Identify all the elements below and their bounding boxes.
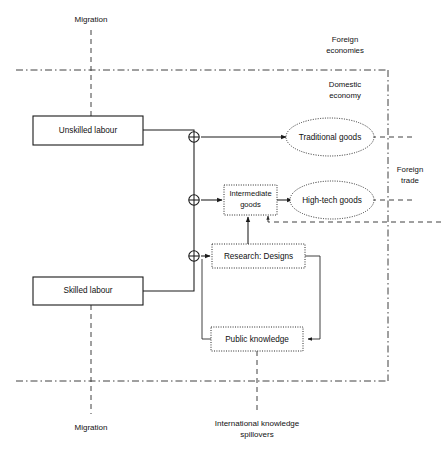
research-to-public-knowledge	[305, 256, 320, 339]
imported-intermediates-path	[268, 216, 441, 222]
domestic-economy-label-line1: Domestic	[329, 80, 362, 89]
unskilled-labour-label: Unskilled labour	[59, 126, 118, 135]
knowledge-spillovers-label-line1: International knowledge	[215, 419, 300, 428]
foreign-trade-label-line2: trade	[401, 176, 419, 185]
intermediate-goods-label-line2: goods	[240, 200, 261, 209]
foreign-economies-label-line1: Foreign	[332, 35, 358, 44]
external-flow-lines	[91, 30, 257, 414]
foreign-trade-label-line1: Foreign	[397, 165, 423, 174]
knowledge-spillovers-label-line2: spillovers	[240, 430, 273, 439]
node-high-tech-goods[interactable]: High-tech goods	[290, 181, 374, 219]
node-intermediate-goods[interactable]: Intermediate goods	[224, 185, 277, 215]
public-knowledge-label: Public knowledge	[225, 335, 289, 344]
migration-top-label: Migration	[75, 15, 108, 24]
traditional-goods-label: Traditional goods	[299, 133, 362, 142]
high-tech-goods-label: High-tech goods	[302, 196, 362, 205]
migration-bottom-label: Migration	[75, 423, 108, 432]
node-traditional-goods[interactable]: Traditional goods	[286, 118, 374, 156]
node-unskilled-labour[interactable]: Unskilled labour	[33, 116, 143, 145]
unskilled-labour-trunk	[143, 130, 194, 254]
flow-text-labels: Migration Migration International knowle…	[75, 15, 300, 439]
foreign-economies-label-line2: economies	[326, 46, 364, 55]
skilled-labour-label: Skilled labour	[63, 286, 112, 295]
skilled-labour-trunk	[143, 254, 194, 291]
flow-diagram: Unskilled labour Skilled labour Intermed…	[0, 0, 441, 451]
public-knowledge-to-research	[202, 259, 211, 339]
node-research-designs[interactable]: Research: Designs	[212, 244, 305, 268]
imported-intermediates-line	[268, 219, 441, 222]
zone-text-labels: Foreign economies Domestic economy Forei…	[326, 35, 423, 185]
diagram-canvas: Unskilled labour Skilled labour Intermed…	[0, 0, 441, 451]
domestic-economy-label-line2: economy	[329, 91, 361, 100]
factor-flow-lines	[143, 130, 320, 339]
node-skilled-labour[interactable]: Skilled labour	[33, 277, 143, 305]
intermediate-goods-label-line1: Intermediate	[229, 189, 271, 198]
research-designs-label: Research: Designs	[224, 252, 293, 261]
node-public-knowledge[interactable]: Public knowledge	[211, 327, 303, 351]
